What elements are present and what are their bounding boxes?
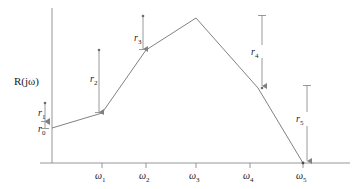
- annotation-label-r2: r2: [90, 74, 97, 87]
- annotation-label-r3: r3: [134, 33, 141, 46]
- annotation-label-r0: r0: [38, 124, 45, 137]
- x-tick-label-omega5: ω5: [296, 171, 307, 184]
- annotation-label-r5: r5: [296, 114, 303, 127]
- x-tick-label-omega3: ω3: [189, 171, 200, 184]
- x-tick-label-omega1: ω1: [95, 171, 106, 184]
- annotation-r4: [258, 15, 266, 89]
- x-tick-label-omega2: ω2: [139, 171, 150, 184]
- x-axis-ticks: [102, 163, 303, 168]
- annotation-label-r4: r4: [251, 47, 258, 60]
- data-series-line: [52, 18, 303, 163]
- plot-svg: [0, 0, 352, 189]
- y-axis-label: R(jω): [14, 76, 39, 87]
- x-tick-label-omega4: ω4: [243, 171, 254, 184]
- figure-plot-r-jomega: R(jω) r0 r1 r2 r3 r4 r5 ω1 ω2 ω3 ω4 ω5: [0, 0, 352, 189]
- annotation-label-r1: r1: [38, 108, 45, 121]
